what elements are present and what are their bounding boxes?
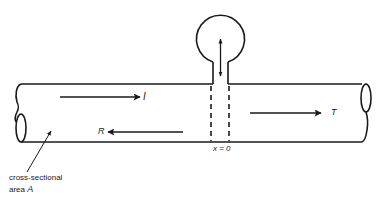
reflected-label: R <box>98 127 105 136</box>
area-leader-line <box>27 131 51 172</box>
area-symbol: A <box>27 184 33 194</box>
left-pipe-end <box>16 84 21 112</box>
right-pipe-end <box>362 112 368 142</box>
area-label-line1: cross-sectional <box>9 174 62 182</box>
area-label-prefix: area <box>9 185 27 194</box>
area-label-line2: area A <box>9 185 33 194</box>
left-end-ellipse <box>16 114 26 142</box>
pipe-diagram <box>0 0 380 197</box>
incident-label: I <box>143 92 146 102</box>
position-label: x = 0 <box>213 145 231 153</box>
transmitted-label: T <box>331 108 337 117</box>
junction-dashed-lines <box>211 86 229 141</box>
right-end-ellipse <box>361 84 371 112</box>
